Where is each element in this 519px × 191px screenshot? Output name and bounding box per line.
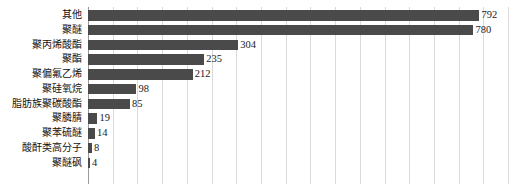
bar-value-label: 212 <box>195 67 211 81</box>
bar-row: 212 <box>88 67 513 82</box>
bar-value-label: 792 <box>481 8 497 22</box>
bar <box>88 128 95 139</box>
bar-value-label: 304 <box>240 38 256 52</box>
bar <box>88 25 473 36</box>
plot-area: 7927803042352129885191484 <box>88 7 513 184</box>
bar-row: 98 <box>88 82 513 97</box>
category-label: 聚醚 <box>62 23 82 38</box>
bar-value-label: 98 <box>138 82 149 96</box>
bar-row: 780 <box>88 23 513 38</box>
bar-value-label: 19 <box>99 111 110 125</box>
bar-row: 19 <box>88 111 513 126</box>
bar-value-label: 85 <box>132 97 143 111</box>
bar <box>88 113 97 124</box>
category-label: 聚硅氧烷 <box>42 82 82 97</box>
bar-row: 792 <box>88 8 513 23</box>
category-label: 酸酐类高分子 <box>22 141 82 156</box>
category-label: 聚膦腈 <box>52 111 82 126</box>
bar-value-label: 14 <box>97 126 108 140</box>
bar <box>88 40 238 51</box>
bar-row: 235 <box>88 52 513 67</box>
bar <box>88 99 130 110</box>
bar <box>88 158 90 169</box>
bar-rows: 7927803042352129885191484 <box>88 7 513 184</box>
bar-value-label: 235 <box>206 52 222 66</box>
bar <box>88 84 136 95</box>
bar-value-label: 780 <box>475 23 491 37</box>
bar <box>88 143 92 154</box>
bar-row: 8 <box>88 141 513 156</box>
category-label: 聚醚砜 <box>52 156 82 171</box>
category-label: 聚酯 <box>62 52 82 67</box>
category-label: 其他 <box>62 8 82 23</box>
category-label: 聚偏氟乙烯 <box>32 67 82 82</box>
bar-row: 304 <box>88 38 513 53</box>
bar-row: 4 <box>88 156 513 171</box>
bar-value-label: 8 <box>94 141 99 155</box>
category-label: 聚苯硫醚 <box>42 126 82 141</box>
category-label: 聚丙烯酸酯 <box>32 38 82 53</box>
bar-chart: 其他聚醚聚丙烯酸酯聚酯聚偏氟乙烯聚硅氧烷脂肪族聚碳酸酯聚膦腈聚苯硫醚酸酐类高分子… <box>0 0 519 191</box>
bar-value-label: 4 <box>92 156 97 170</box>
bar <box>88 69 193 80</box>
category-label: 脂肪族聚碳酸酯 <box>12 97 82 112</box>
bar-row: 14 <box>88 126 513 141</box>
bar-row: 85 <box>88 97 513 112</box>
bar <box>88 54 204 65</box>
category-axis-labels: 其他聚醚聚丙烯酸酯聚酯聚偏氟乙烯聚硅氧烷脂肪族聚碳酸酯聚膦腈聚苯硫醚酸酐类高分子… <box>0 7 85 184</box>
bar <box>88 10 479 21</box>
